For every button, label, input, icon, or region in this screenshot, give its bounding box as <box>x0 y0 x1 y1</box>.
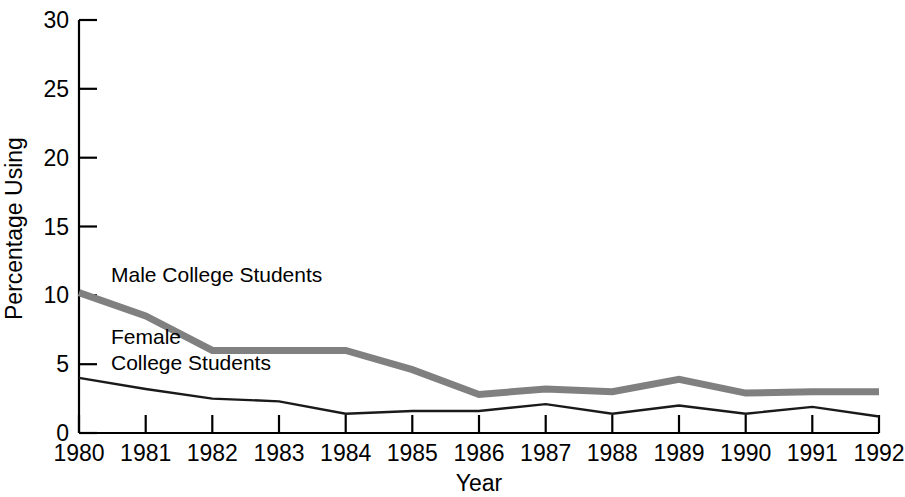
y-tick-labels: 30 25 20 15 10 5 0 <box>43 7 69 446</box>
x-tick-label: 1987 <box>520 440 571 466</box>
x-tick-label: 1986 <box>453 440 504 466</box>
line-chart: 30 25 20 15 10 5 0 Percentage Using <box>0 0 905 497</box>
x-tick-label: 1984 <box>320 440 371 466</box>
series-label-male: Male College Students <box>111 263 322 286</box>
x-tick-label: 1990 <box>720 440 771 466</box>
chart-title-clipped <box>0 0 905 1</box>
series-label-female-line1: Female <box>111 325 181 348</box>
y-tick-label: 10 <box>43 282 69 308</box>
series-line-male <box>79 293 879 395</box>
x-tick-label: 1982 <box>187 440 238 466</box>
x-axis-title: Year <box>456 470 503 496</box>
x-tick-labels: 1980 1981 1982 1983 1984 1985 1986 1987 … <box>53 440 904 466</box>
x-tick-label: 1985 <box>387 440 438 466</box>
x-tick-label: 1988 <box>587 440 638 466</box>
series-label-female-line2: College Students <box>111 351 271 374</box>
y-tick-label: 20 <box>43 145 69 171</box>
y-tick-marks <box>79 20 97 433</box>
y-tick-label: 15 <box>43 214 69 240</box>
x-tick-label: 1991 <box>787 440 838 466</box>
y-tick-label: 5 <box>56 351 69 377</box>
x-tick-label: 1981 <box>120 440 171 466</box>
y-tick-label: 30 <box>43 7 69 33</box>
chart-container: 30 25 20 15 10 5 0 Percentage Using <box>0 0 905 497</box>
x-tick-label: 1989 <box>653 440 704 466</box>
x-tick-marks <box>79 415 879 433</box>
y-axis-title: Percentage Using <box>1 137 27 320</box>
x-tick-label: 1980 <box>53 440 104 466</box>
x-tick-label: 1983 <box>253 440 304 466</box>
y-tick-label: 25 <box>43 76 69 102</box>
x-tick-label: 1992 <box>853 440 904 466</box>
